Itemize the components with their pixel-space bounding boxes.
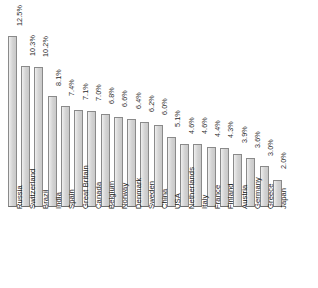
bar-group: 8.1% xyxy=(48,0,57,207)
category-tick: Finland xyxy=(220,209,229,288)
category-label: Greece xyxy=(267,183,275,209)
bar-group: 5.1% xyxy=(167,0,176,207)
category-label: Austria xyxy=(241,185,249,209)
category-label: USA xyxy=(175,193,183,209)
bar-value-label: 2.0% xyxy=(281,153,288,170)
category-tick: Brazil xyxy=(34,209,43,288)
category-tick: Sweden xyxy=(140,209,149,288)
category-label: Belgium xyxy=(109,181,117,209)
category-label: Italy xyxy=(201,195,209,209)
category-tick: Germany xyxy=(246,209,255,288)
category-label: Sweden xyxy=(148,181,156,209)
category-label: Russia xyxy=(16,185,24,209)
bar-chart: 12.5%10.3%10.2%8.1%7.4%7.1%7.0%6.8%6.6%6… xyxy=(0,0,318,288)
category-label: China xyxy=(162,189,170,209)
category-label: Netherlands xyxy=(188,167,196,209)
bar-group: 3.0% xyxy=(260,0,269,207)
bar[interactable] xyxy=(8,36,17,207)
category-label: Brazil xyxy=(42,189,50,209)
category-label: India xyxy=(56,192,64,209)
bar-group: 4.4% xyxy=(207,0,216,207)
bar-group: 6.6% xyxy=(114,0,123,207)
category-tick: China xyxy=(154,209,163,288)
category-label: France xyxy=(214,185,222,209)
category-tick: France xyxy=(207,209,216,288)
category-tick: Italy xyxy=(193,209,202,288)
category-tick: Greece xyxy=(260,209,269,288)
category-tick: Norway xyxy=(114,209,123,288)
category-tick: Japan xyxy=(273,209,282,288)
category-tick: Denmark xyxy=(127,209,136,288)
category-tick: Spain xyxy=(61,209,70,288)
category-axis: RussiaSwitzerlandBrazilIndiaSpainGreat B… xyxy=(8,209,310,288)
category-label: Finland xyxy=(228,183,236,209)
category-tick: Canada xyxy=(87,209,96,288)
category-label: Japan xyxy=(281,188,289,209)
category-tick: USA xyxy=(167,209,176,288)
bar-group: 6.2% xyxy=(140,0,149,207)
plot-area: 12.5%10.3%10.2%8.1%7.4%7.1%7.0%6.8%6.6%6… xyxy=(8,0,310,207)
category-label: Canada xyxy=(95,182,103,209)
bar-group: 4.3% xyxy=(220,0,229,207)
category-tick: Netherlands xyxy=(180,209,189,288)
bar-group: 2.0% xyxy=(273,0,282,207)
bar-group: 6.4% xyxy=(127,0,136,207)
category-tick: Belgium xyxy=(101,209,110,288)
bar-group: 6.0% xyxy=(154,0,163,207)
bar-group: 7.4% xyxy=(61,0,70,207)
category-tick: Switzerland xyxy=(21,209,30,288)
category-label: Denmark xyxy=(135,177,143,209)
category-tick: Russia xyxy=(8,209,17,288)
category-label: Germany xyxy=(254,177,262,209)
category-tick: Austria xyxy=(233,209,242,288)
category-tick: Great Britain xyxy=(74,209,83,288)
bar-group: 6.8% xyxy=(101,0,110,207)
bar-group: 12.5% xyxy=(8,0,17,207)
category-tick: India xyxy=(48,209,57,288)
category-label: Great Britain xyxy=(82,165,90,209)
category-label: Spain xyxy=(69,189,77,209)
bar-group: 3.6% xyxy=(246,0,255,207)
category-label: Switzerland xyxy=(29,169,37,209)
bar-group: 3.9% xyxy=(233,0,242,207)
category-label: Norway xyxy=(122,183,130,209)
